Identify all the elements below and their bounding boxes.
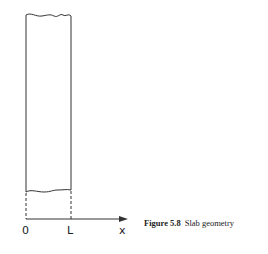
label-L: L xyxy=(67,224,74,237)
figure-caption-text: Slab geometry xyxy=(185,218,234,228)
label-origin: 0 xyxy=(22,224,29,237)
figure-number: Figure 5.8 xyxy=(144,218,181,228)
figure-caption: Figure 5.8Slab geometry xyxy=(144,218,234,228)
slab-geometry-diagram: 0 L x xyxy=(0,0,268,254)
slab-top-break xyxy=(26,14,71,16)
x-axis-arrowhead xyxy=(119,216,128,222)
label-x: x xyxy=(119,224,126,237)
slab-bottom-break xyxy=(26,190,71,192)
